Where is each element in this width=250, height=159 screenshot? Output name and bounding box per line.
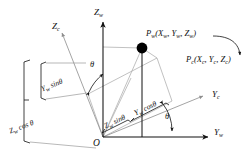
leader-bottom: [30, 142, 96, 148]
angle-label-theta-lower: θ: [165, 112, 169, 121]
point-label-p-world: Pw(Xw, Yw, Zw): [146, 29, 196, 38]
point-pw-marker: [137, 43, 148, 54]
bracket-zw-cos: [24, 60, 30, 143]
bracket-yw-sin: [41, 62, 46, 100]
horizontal-top-tie: [103, 47, 142, 48]
axis-label-y-camera: Yc: [212, 90, 220, 99]
figure-canvas: Zw Zc Yc Yw O Pw(Xw, Yw, Zw) Pc(Xc, Yc, …: [0, 0, 250, 159]
mapping-arrow: [213, 36, 240, 55]
leader-mid: [46, 93, 87, 99]
construction-lines: [88, 47, 172, 137]
axis-label-y-world: Yw: [214, 128, 223, 137]
point-label-p-camera: Pc(Xc, Yc, Zc): [186, 55, 231, 64]
axis-label-z-camera: Zc: [52, 22, 60, 31]
right-slant-edge: [157, 58, 172, 101]
z-camera-axis: [62, 33, 103, 137]
axis-label-z-world: Zw: [94, 8, 103, 17]
projection-line-upper: [88, 58, 157, 94]
theta-arc-upper: [89, 74, 103, 92]
angle-label-theta-upper: θ: [90, 60, 94, 69]
coordinate-diagram-svg: [0, 0, 250, 159]
origin-label: O: [93, 139, 100, 149]
